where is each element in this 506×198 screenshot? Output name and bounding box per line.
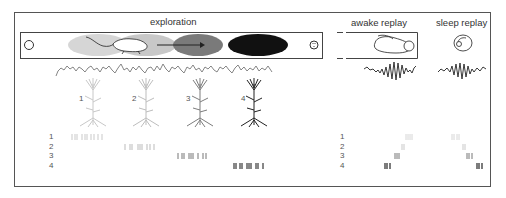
neuron-label-3: 3 <box>186 94 190 103</box>
replay-row-label-3: 3 <box>340 151 344 160</box>
neuron-label-2: 2 <box>132 94 136 103</box>
raster-exploration-3 <box>178 153 206 159</box>
raster-exploration-1 <box>72 134 102 140</box>
start-reward-icon <box>25 41 34 50</box>
neuron-1 <box>80 78 106 127</box>
sleep-ripple-trace <box>438 63 486 79</box>
end-reward-icon <box>310 41 318 49</box>
resting-rat-icon <box>374 35 414 53</box>
raster-row-label-3: 3 <box>49 151 53 160</box>
awake-ripple-trace <box>364 62 416 80</box>
raster-sleep-replay <box>452 134 482 169</box>
sleeping-rat-icon <box>454 35 472 51</box>
replay-row-label-1: 1 <box>340 132 344 141</box>
place-field-4 <box>228 34 288 56</box>
neuron-2 <box>133 78 159 127</box>
raster-row-label-4: 4 <box>49 161 53 170</box>
neuron-label-4: 4 <box>241 94 245 103</box>
raster-awake-replay <box>385 134 412 169</box>
neuron-label-1: 1 <box>79 94 83 103</box>
raster-row-label-1: 1 <box>49 132 53 141</box>
raster-exploration-2 <box>125 144 154 150</box>
diagram-art <box>0 0 506 198</box>
raster-row-label-2: 2 <box>49 142 53 151</box>
neuron-3 <box>187 78 213 127</box>
theta-lfp-trace <box>56 64 272 76</box>
replay-row-label-4: 4 <box>340 161 344 170</box>
replay-row-label-2: 2 <box>340 142 344 151</box>
raster-exploration-4 <box>234 163 263 169</box>
